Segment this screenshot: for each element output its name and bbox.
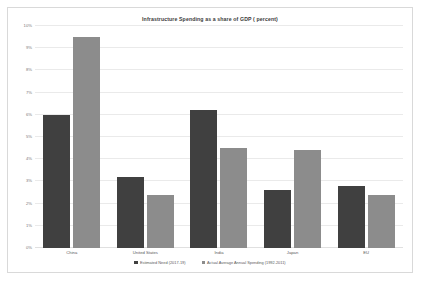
x-axis-labels: ChinaUnited StatesIndiaJapanEU [35,250,403,255]
y-axis-tick-label: 0% [26,245,32,250]
x-axis-label: China [35,250,109,255]
legend-label: Actual Average Annual Spending (1992-201… [207,260,286,265]
bar-group [329,26,403,248]
legend-item: Actual Average Annual Spending (1992-201… [202,260,286,265]
x-axis-label: United States [109,250,183,255]
chart-title: Infrastructure Spending as a share of GD… [8,16,412,22]
bar-group [109,26,183,248]
chart-legend: Estimated Need (2017-19)Actual Average A… [8,260,412,265]
plot-area: 0%1%2%3%4%5%6%7%8%9%10% [35,26,403,248]
bar [190,110,217,248]
bar [220,148,247,248]
bar-group [256,26,330,248]
y-axis-tick-label: 8% [26,67,32,72]
bar [117,177,144,248]
bar [73,37,100,248]
bar-group [182,26,256,248]
y-axis-tick-label: 9% [26,45,32,50]
x-axis-label: India [182,250,256,255]
y-axis-tick-label: 3% [26,178,32,183]
bar [338,186,365,248]
bar [368,195,395,248]
bar [264,190,291,248]
legend-swatch [202,261,206,265]
chart-container: Infrastructure Spending as a share of GD… [7,7,413,273]
x-axis-label: EU [329,250,403,255]
legend-swatch [134,261,138,265]
legend-item: Estimated Need (2017-19) [134,260,185,265]
x-axis-label: Japan [256,250,330,255]
bar [147,195,174,248]
legend-label: Estimated Need (2017-19) [140,260,186,265]
bar [43,115,70,248]
y-axis-tick-label: 10% [24,23,32,28]
bar-group [35,26,109,248]
y-axis-tick-label: 2% [26,200,32,205]
y-axis-tick-label: 1% [26,222,32,227]
bar [294,150,321,248]
y-axis-tick-label: 4% [26,156,32,161]
y-axis-tick-label: 5% [26,134,32,139]
y-axis-tick-label: 7% [26,89,32,94]
y-axis-tick-label: 6% [26,111,32,116]
bar-groups [35,26,403,248]
